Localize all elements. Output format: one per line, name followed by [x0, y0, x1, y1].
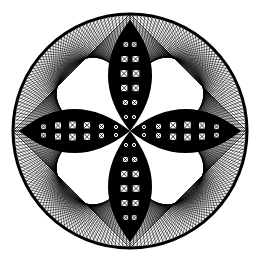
- string-art-figure: [0, 0, 260, 263]
- flower-petals: [19, 20, 241, 242]
